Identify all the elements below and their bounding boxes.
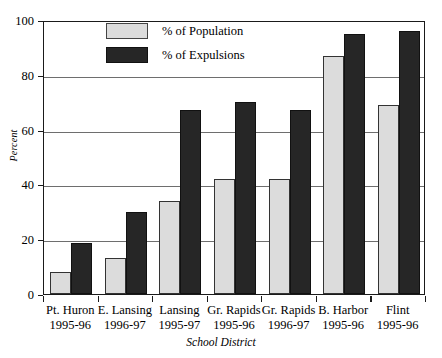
bar-expulsions-5 bbox=[344, 34, 365, 294]
bar-expulsions-3 bbox=[235, 102, 256, 294]
x-tick-mark-7 bbox=[425, 296, 426, 302]
x-tick-mark-2 bbox=[152, 296, 153, 302]
x-category-name-6: Flint bbox=[386, 303, 410, 317]
legend-item-expulsions: % of Expulsions bbox=[106, 46, 306, 65]
bar-chart: Percent 020406080100 Pt. Huron1995-96E. … bbox=[0, 0, 442, 358]
legend-item-population: % of Population bbox=[106, 22, 306, 41]
bar-population-0 bbox=[50, 272, 71, 294]
y-tick-label-20: 20 bbox=[2, 234, 34, 247]
legend-swatch-expulsions bbox=[106, 47, 148, 63]
bar-population-3 bbox=[214, 179, 235, 294]
bar-population-4 bbox=[269, 179, 290, 294]
x-tick-mark-6 bbox=[370, 296, 371, 302]
x-tick-mark-4 bbox=[261, 296, 262, 302]
y-tick-label-0: 0 bbox=[2, 289, 34, 302]
bar-expulsions-0 bbox=[71, 243, 92, 294]
bar-expulsions-2 bbox=[180, 110, 201, 294]
legend-label-population: % of Population bbox=[162, 23, 243, 39]
legend-label-expulsions: % of Expulsions bbox=[162, 47, 245, 63]
x-category-year-6: 1995-96 bbox=[360, 318, 435, 333]
y-tick-label-60: 60 bbox=[2, 125, 34, 138]
x-category-name-2: Lansing bbox=[159, 303, 199, 317]
x-axis-title: School District bbox=[0, 336, 442, 348]
bar-population-5 bbox=[323, 56, 344, 294]
x-tick-mark-1 bbox=[98, 296, 99, 302]
x-tick-mark-0 bbox=[43, 296, 44, 302]
y-tick-label-40: 40 bbox=[2, 179, 34, 192]
legend-swatch-population bbox=[106, 23, 148, 39]
bar-expulsions-6 bbox=[399, 31, 420, 294]
bar-population-1 bbox=[105, 258, 126, 294]
bar-expulsions-4 bbox=[290, 110, 311, 294]
bar-population-2 bbox=[159, 201, 180, 294]
x-category-label-6: Flint1995-96 bbox=[360, 303, 435, 333]
y-tick-label-80: 80 bbox=[2, 70, 34, 83]
bar-population-6 bbox=[378, 105, 399, 294]
y-tick-label-100: 100 bbox=[2, 15, 34, 28]
bar-expulsions-1 bbox=[126, 212, 147, 294]
x-tick-mark-5 bbox=[316, 296, 317, 302]
chart-legend: % of Population % of Expulsions bbox=[106, 22, 306, 70]
x-tick-mark-3 bbox=[207, 296, 208, 302]
